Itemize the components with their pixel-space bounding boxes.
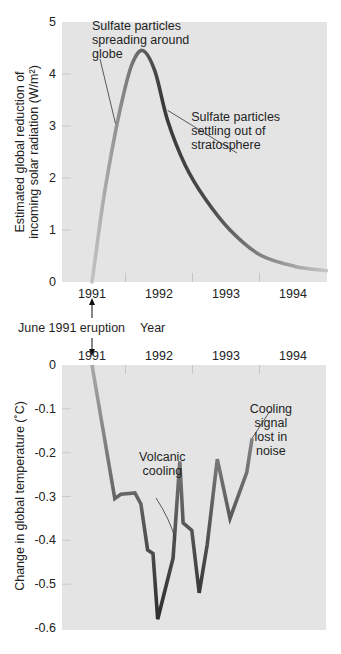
x-tick-label: 1994 bbox=[279, 349, 307, 363]
y-tick-label: 4 bbox=[49, 67, 56, 81]
annotation-text: settling out of bbox=[191, 124, 266, 138]
y-tick-label: 0 bbox=[49, 358, 56, 372]
annotation-text: cooling bbox=[143, 464, 183, 478]
x-tick-label: 1992 bbox=[145, 349, 173, 363]
y-tick-label: -0.2 bbox=[34, 446, 56, 460]
top-plot-background bbox=[62, 22, 327, 282]
eruption-marker: June 1991 eruption Year bbox=[18, 298, 165, 356]
y-tick-label: -0.4 bbox=[34, 533, 56, 547]
y-tick-label: -0.3 bbox=[34, 490, 56, 504]
annotation-text: noise bbox=[256, 444, 286, 458]
top-y-axis-title-line1: Estimated global reduction of bbox=[13, 71, 27, 233]
y-tick-label: 1 bbox=[49, 223, 56, 237]
annotation-text: Sulfate particles bbox=[191, 110, 280, 124]
y-tick-label: -0.5 bbox=[34, 577, 56, 591]
x-tick-label: 1993 bbox=[212, 287, 240, 301]
x-tick-label: 1994 bbox=[279, 287, 307, 301]
annotation-text: stratosphere bbox=[191, 138, 261, 152]
annotation-text: lost in bbox=[255, 430, 288, 444]
y-tick-label: 0 bbox=[49, 275, 56, 289]
annotation-text: Sulfate particles bbox=[92, 19, 181, 33]
annotation-text: Volcanic bbox=[139, 450, 186, 464]
annotation-text: globe bbox=[92, 47, 123, 61]
annotation: Coolingsignallost innoise bbox=[250, 402, 292, 458]
figure: 012345 1991199219931994 Estimated global… bbox=[0, 0, 341, 654]
y-tick-label: 3 bbox=[49, 119, 56, 133]
x-tick-label: 1991 bbox=[78, 349, 106, 363]
annotation-text: signal bbox=[255, 416, 288, 430]
x-tick-label: 1992 bbox=[145, 287, 173, 301]
top-chart: 012345 1991199219931994 Estimated global… bbox=[13, 15, 327, 301]
annotation-text: spreading around bbox=[92, 33, 189, 47]
y-tick-label: -0.1 bbox=[34, 402, 56, 416]
bottom-y-axis-title: Change in global temperature (˚C) bbox=[13, 401, 27, 591]
y-tick-label: -0.6 bbox=[34, 621, 56, 635]
top-y-axis-title-line2: incoming solar radiation (W/m²) bbox=[27, 65, 41, 239]
annotation-text: Cooling bbox=[250, 402, 292, 416]
y-tick-label: 5 bbox=[49, 15, 56, 29]
eruption-label: June 1991 eruption bbox=[18, 321, 125, 335]
x-tick-label: 1993 bbox=[212, 349, 240, 363]
bottom-chart: 0-0.1-0.2-0.3-0.4-0.5-0.6 19911992199319… bbox=[13, 349, 326, 635]
x-axis-title-year: Year bbox=[140, 321, 165, 335]
y-tick-label: 2 bbox=[49, 171, 56, 185]
